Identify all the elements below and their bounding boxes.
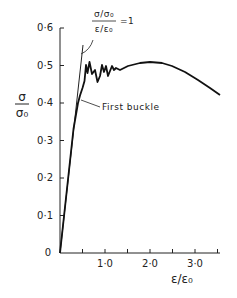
annotation-first-buckle: First buckle: [81, 100, 159, 112]
axes: [60, 28, 220, 253]
x-tick-labels: 1·0 2·0 3·0: [97, 258, 203, 269]
x-axis-label: ε/ε₀: [171, 272, 193, 286]
y-label-denominator: σ₀: [16, 106, 29, 120]
y-tick-0.5: 0·5: [37, 60, 53, 71]
x-tick-1.0: 1·0: [97, 258, 113, 269]
x-tick-3.0: 3·0: [187, 258, 203, 269]
y-tick-labels: 0 0·1 0·2 0·3 0·4 0·5 0·6: [37, 22, 53, 258]
y-tick-0.3: 0·3: [37, 135, 53, 146]
annotation-denominator: ε/ε₀: [95, 24, 113, 34]
y-axis-label: σ σ₀: [15, 90, 29, 120]
chart: 0 0·1 0·2 0·3 0·4 0·5 0·6 1·0 2·0 3·0 σ …: [0, 0, 237, 298]
y-label-numerator: σ: [18, 90, 26, 104]
annotation-suffix: =1: [120, 16, 134, 26]
first-buckle-label: First buckle: [102, 102, 159, 112]
y-tick-0: 0: [45, 247, 51, 258]
y-tick-0.1: 0·1: [37, 210, 53, 221]
annotation-elastic: σ/σ₀ ε/ε₀ =1: [81, 9, 134, 54]
load-shortening-curve: [60, 62, 220, 253]
y-tick-0.4: 0·4: [37, 97, 53, 108]
y-tick-0.2: 0·2: [37, 172, 53, 183]
annotation-numerator: σ/σ₀: [94, 9, 114, 19]
y-tick-0.6: 0·6: [37, 22, 53, 33]
x-tick-2.0: 2·0: [142, 258, 158, 269]
